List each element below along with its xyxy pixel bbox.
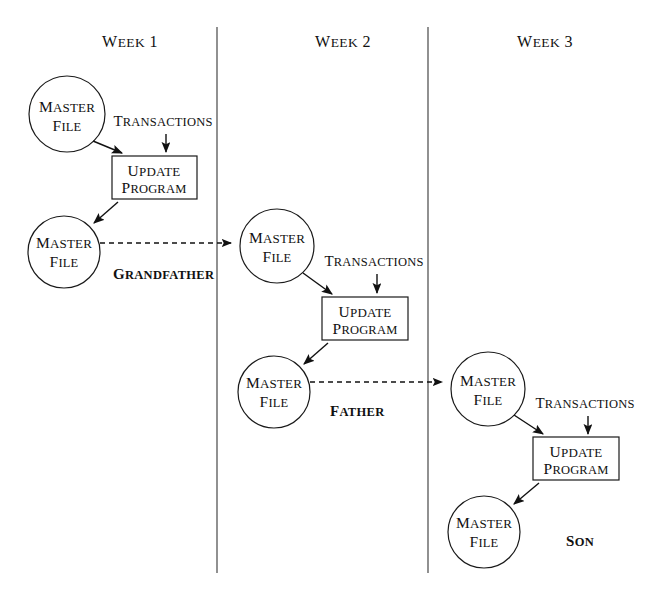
cycle-week-3: MASTER FILE TRANSACTIONS UPDATE PROGRAM … bbox=[448, 352, 635, 568]
master-file-label-week-2-output: MASTER bbox=[246, 374, 302, 391]
master-file-label-week-2-input: MASTER bbox=[249, 229, 305, 246]
update-program-label-line2-week-1: PROGRAM bbox=[122, 179, 187, 196]
master-file-node-week-1-output bbox=[28, 216, 100, 288]
master-file-node-week-3-output bbox=[448, 496, 520, 568]
flow-arrow-input-to-program-week-1 bbox=[93, 141, 122, 153]
flow-arrow-input-to-program-week-3 bbox=[514, 415, 543, 434]
master-file-label-line2-week-1-output: FILE bbox=[50, 253, 79, 270]
generation-label-father: FATHER bbox=[330, 403, 385, 419]
master-file-label-line2-week-2-output: FILE bbox=[260, 393, 289, 410]
update-program-label-week-1: UPDATE bbox=[128, 162, 181, 179]
cycle-week-2: MASTER FILE TRANSACTIONS UPDATE PROGRAM … bbox=[238, 209, 442, 428]
file-generation-diagram: WEEK 1 WEEK 2 WEEK 3 MASTER FILE TRANSAC… bbox=[0, 0, 655, 600]
master-file-node-week-2-output bbox=[238, 356, 310, 428]
master-file-label-line2-week-1-input: FILE bbox=[53, 117, 82, 134]
cycle-week-1: MASTER FILE TRANSACTIONS UPDATE PROGRAM … bbox=[28, 76, 231, 288]
master-file-node-week-2-input bbox=[240, 209, 314, 283]
update-program-label-week-2: UPDATE bbox=[339, 303, 392, 320]
generation-label-grandfather: GRANDFATHER bbox=[113, 266, 215, 282]
master-file-label-line2-week-2-input: FILE bbox=[263, 248, 292, 265]
column-header-week-1: WEEK 1 bbox=[102, 33, 158, 50]
update-program-label-line2-week-3: PROGRAM bbox=[544, 460, 609, 477]
transactions-label-week-2: TRANSACTIONS bbox=[324, 253, 423, 269]
generation-label-son: SON bbox=[566, 533, 594, 549]
flow-arrow-program-to-output-week-2 bbox=[304, 343, 328, 364]
master-file-label-week-3-output: MASTER bbox=[456, 514, 512, 531]
master-file-node-week-3-input bbox=[451, 352, 525, 426]
flow-arrow-input-to-program-week-2 bbox=[303, 273, 332, 294]
column-header-week-3: WEEK 3 bbox=[517, 33, 573, 50]
transactions-label-week-3: TRANSACTIONS bbox=[535, 395, 634, 411]
update-program-label-line2-week-2: PROGRAM bbox=[333, 320, 398, 337]
column-header-week-2: WEEK 2 bbox=[315, 33, 371, 50]
master-file-label-line2-week-3-input: FILE bbox=[474, 391, 503, 408]
diagram-canvas: WEEK 1 WEEK 2 WEEK 3 MASTER FILE TRANSAC… bbox=[0, 0, 655, 600]
update-program-label-week-3: UPDATE bbox=[550, 443, 603, 460]
master-file-label-week-3-input: MASTER bbox=[460, 372, 516, 389]
flow-arrow-program-to-output-week-1 bbox=[94, 202, 118, 223]
master-file-label-line2-week-3-output: FILE bbox=[470, 533, 499, 550]
flow-arrow-program-to-output-week-3 bbox=[514, 483, 539, 504]
master-file-label-week-1-output: MASTER bbox=[36, 234, 92, 251]
transactions-label-week-1: TRANSACTIONS bbox=[113, 113, 212, 129]
master-file-label-week-1-input: MASTER bbox=[39, 98, 95, 115]
